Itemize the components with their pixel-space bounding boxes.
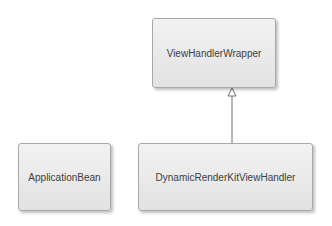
- class-label: ViewHandlerWrapper: [167, 48, 262, 59]
- class-node-viewhandlerwrapper[interactable]: ViewHandlerWrapper: [152, 18, 276, 88]
- class-node-dynamicrenderkitviewhandler[interactable]: DynamicRenderKitViewHandler: [138, 143, 313, 211]
- hollow-arrowhead-icon: [228, 88, 236, 96]
- class-label: DynamicRenderKitViewHandler: [156, 172, 296, 183]
- class-label: ApplicationBean: [28, 172, 100, 183]
- class-node-applicationbean[interactable]: ApplicationBean: [18, 143, 111, 211]
